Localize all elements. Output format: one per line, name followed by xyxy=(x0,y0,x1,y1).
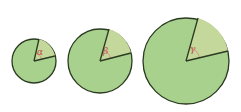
circle-sectors-diagram: α β γ xyxy=(0,0,241,112)
circle-medium: β xyxy=(68,29,132,93)
angle-label: α xyxy=(37,47,43,57)
circle-small: α xyxy=(12,39,56,83)
angle-label: β xyxy=(102,46,108,56)
angle-label: γ xyxy=(190,44,196,54)
circle-large: γ xyxy=(143,18,229,104)
